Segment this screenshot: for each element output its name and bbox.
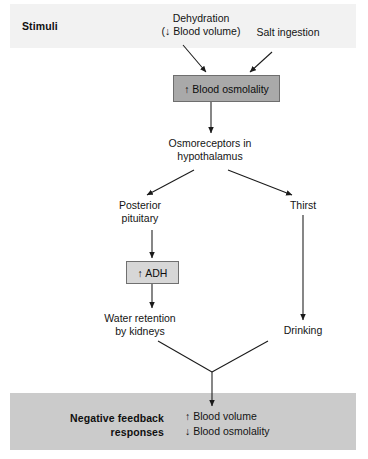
node-thirst: Thirst — [267, 199, 339, 212]
node-water-retention-by-kidneys: Water retention by kidneys — [92, 312, 188, 338]
arrow-layer — [0, 0, 368, 459]
node-posterior-pituitary: Posterior pituitary — [96, 199, 184, 225]
node-osmoreceptors-hypothalamus: Osmoreceptors in hypothalamus — [152, 137, 268, 163]
line-water-retention-to-junction — [158, 341, 212, 372]
node-feedback-results: ↑ Blood volume ↓ Blood osmolality — [185, 409, 345, 438]
arrow-dehydration-to-osmolality — [183, 45, 206, 72]
stimuli-band-label: Stimuli — [22, 20, 58, 32]
arrow-osmoreceptors-to-thirst — [228, 170, 292, 195]
flow-diagram-osmoregulation: Stimuli Negative feedback responses Dehy… — [0, 0, 368, 459]
arrow-osmoreceptors-to-posterior-pituitary — [147, 170, 194, 195]
line-drinking-to-junction — [212, 341, 268, 372]
arrow-salt-to-osmolality — [250, 52, 272, 72]
box-adh: ↑ ADH — [126, 261, 179, 284]
negative-feedback-band-label: Negative feedback responses — [24, 412, 164, 439]
node-salt-ingestion: Salt ingestion — [240, 26, 336, 39]
box-blood-osmolality: ↑ Blood osmolality — [173, 75, 280, 102]
node-drinking: Drinking — [267, 324, 339, 337]
